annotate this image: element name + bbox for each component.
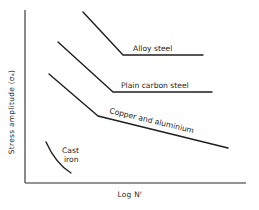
- label-copper-aluminium: Copper and aluminium: [109, 106, 195, 135]
- label-alloy-steel: Alloy steel: [133, 44, 172, 53]
- sn-diagram: Stress amplitude (σₐ) Log Nᶠ Alloy steel…: [0, 0, 259, 210]
- label-cast-iron-line2: iron: [64, 155, 79, 164]
- label-plain-carbon-steel: Plain carbon steel: [121, 81, 189, 90]
- label-cast-iron-line1: Cast: [62, 146, 79, 155]
- x-axis-label: Log Nᶠ: [117, 190, 142, 199]
- y-axis-label: Stress amplitude (σₐ): [7, 70, 16, 154]
